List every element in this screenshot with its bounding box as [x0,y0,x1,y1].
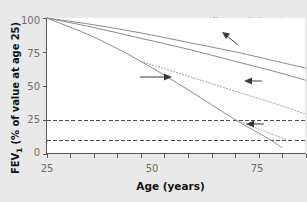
plot-surface [0,0,307,202]
plot-background [46,18,305,153]
x-tick-marks [48,154,307,158]
y-tick-marks [43,19,47,155]
fev1-decline-chart: FEV1 (% of value at age 25) 100 75 50 25… [0,0,307,202]
